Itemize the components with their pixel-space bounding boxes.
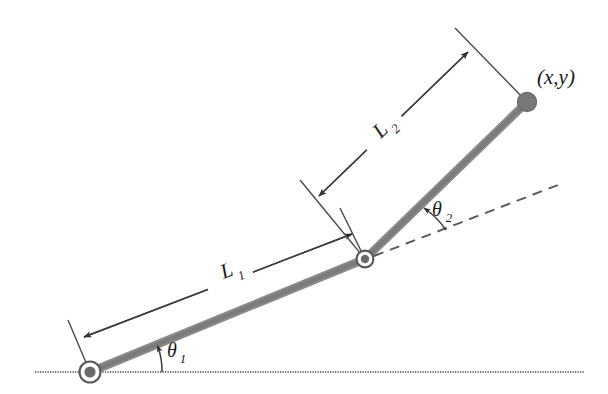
- angle-theta1-arc: [158, 346, 163, 372]
- label-theta1-subscript: 1: [180, 351, 187, 366]
- link2-dimension-annotation: [300, 28, 527, 259]
- link1-dimension-annotation: [68, 208, 365, 372]
- label-theta2-text: θ: [432, 198, 442, 220]
- figure-canvas: L 1 L 2 θ 1 θ 2 (x,y): [0, 0, 608, 394]
- label-theta1: θ 1: [167, 339, 186, 366]
- label-theta2: θ 2: [432, 198, 453, 225]
- label-theta1-text: θ: [167, 339, 177, 361]
- elbow-joint: [357, 251, 374, 268]
- label-theta2-subscript: 2: [446, 210, 453, 225]
- label-endpoint-xy-text: (x,y): [537, 65, 575, 89]
- label-endpoint-xy: (x,y): [537, 65, 575, 89]
- two-link-arm-diagram: L 1 L 2 θ 1 θ 2 (x,y): [0, 0, 608, 394]
- base-joint: [80, 362, 101, 383]
- end-effector-point: [517, 92, 536, 111]
